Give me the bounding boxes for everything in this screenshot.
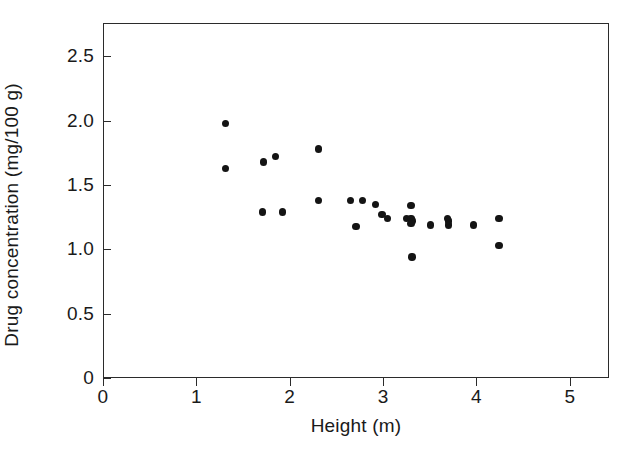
x-tick-label: 3 [378, 386, 389, 407]
x-tick-label-wrap: 4 [446, 386, 506, 408]
y-tick [103, 314, 111, 315]
y-tick-label: 2.0 [36, 111, 94, 130]
x-tick [570, 378, 571, 386]
y-tick [103, 249, 111, 250]
x-tick [196, 378, 197, 386]
y-tick-label: 0 [36, 368, 94, 387]
x-tick-label: 0 [98, 386, 109, 407]
y-tick-label: 0.5 [36, 304, 94, 323]
x-tick-label: 2 [284, 386, 295, 407]
y-tick [103, 378, 111, 379]
x-tick-label-wrap: 1 [166, 386, 226, 408]
x-tick-label: 1 [191, 386, 202, 407]
y-tick [103, 56, 111, 57]
x-tick-label-wrap: 0 [73, 386, 133, 408]
y-tick-label: 1.5 [36, 175, 94, 194]
x-tick-label: 5 [564, 386, 575, 407]
x-tick-label: 4 [471, 386, 482, 407]
x-tick [290, 378, 291, 386]
x-tick-label-wrap: 2 [260, 386, 320, 408]
x-tick [383, 378, 384, 386]
y-tick [103, 185, 111, 186]
y-tick-label: 1.0 [36, 239, 94, 258]
x-tick-label-wrap: 3 [353, 386, 413, 408]
x-tick [103, 378, 104, 386]
scatter-plot-figure: 00.51.01.52.02.5 012345 Height (m) Drug … [0, 0, 636, 458]
x-axis-title: Height (m) [103, 415, 609, 437]
y-tick-label: 2.5 [36, 46, 94, 65]
y-tick [103, 121, 111, 122]
x-tick-label-wrap: 5 [540, 386, 600, 408]
y-axis-title: Drug concentration (mg/100 g) [1, 38, 31, 393]
plot-frame [103, 23, 609, 378]
x-tick [476, 378, 477, 386]
